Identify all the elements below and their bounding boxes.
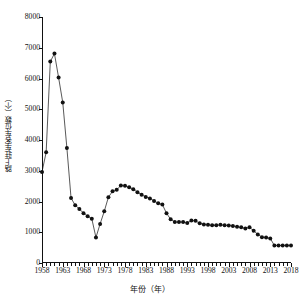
- data-point: [252, 229, 256, 233]
- data-point: [277, 243, 281, 247]
- y-tick-label: 2000: [25, 198, 40, 206]
- data-point: [65, 146, 69, 150]
- y-tick-mark: [39, 171, 42, 172]
- x-tick-mark-minor: [175, 263, 176, 266]
- chart-figure: 路上驻车客车位数（个） 8000700060005000400030002000…: [0, 0, 299, 301]
- data-point: [214, 223, 218, 227]
- data-point: [140, 193, 144, 197]
- x-axis-title: 年份（年）: [0, 283, 299, 294]
- data-point: [227, 223, 231, 227]
- data-point: [198, 221, 202, 225]
- data-point: [119, 184, 123, 188]
- x-tick-mark-minor: [50, 263, 51, 266]
- data-point: [123, 184, 127, 188]
- x-tick-label: 1963: [55, 267, 70, 275]
- data-point: [285, 243, 289, 247]
- data-point: [98, 222, 102, 226]
- data-point: [106, 195, 110, 199]
- x-tick-label: 2008: [242, 267, 257, 275]
- x-tick-label: 1988: [159, 267, 174, 275]
- y-tick-mark: [39, 140, 42, 141]
- y-tick-label: 4000: [25, 136, 40, 144]
- data-point: [102, 209, 106, 213]
- x-tick-label: 1993: [180, 267, 195, 275]
- data-point: [135, 190, 139, 194]
- x-tick-mark-minor: [154, 263, 155, 266]
- data-point: [173, 220, 177, 224]
- data-point: [256, 232, 260, 236]
- x-tick-mark-minor: [237, 263, 238, 266]
- data-point: [148, 196, 152, 200]
- x-tick-label: 1978: [117, 267, 132, 275]
- data-point: [160, 203, 164, 207]
- x-tick-label: 1998: [200, 267, 215, 275]
- y-tick-label: 3000: [25, 167, 40, 175]
- data-point: [152, 199, 156, 203]
- data-point: [69, 196, 73, 200]
- data-point: [264, 235, 268, 239]
- data-point: [144, 195, 148, 199]
- data-point: [272, 243, 276, 247]
- data-point: [235, 225, 239, 229]
- data-point: [177, 220, 181, 224]
- data-point: [289, 243, 293, 247]
- plot-area: [42, 17, 291, 263]
- x-tick-mark-minor: [196, 263, 197, 266]
- x-tick-label: 1968: [76, 267, 91, 275]
- y-tick-mark: [39, 79, 42, 80]
- x-tick-mark-minor: [113, 263, 114, 266]
- data-point: [127, 185, 131, 189]
- data-series: [42, 17, 291, 263]
- x-tick-mark-minor: [71, 263, 72, 266]
- x-tick-label: 2003: [221, 267, 236, 275]
- data-point: [111, 189, 115, 193]
- x-tick-label: 2013: [263, 267, 278, 275]
- x-tick-mark-minor: [92, 263, 93, 266]
- data-point: [268, 236, 272, 240]
- data-point: [44, 150, 48, 154]
- x-tick-mark-minor: [133, 263, 134, 266]
- data-point: [231, 224, 235, 228]
- y-tick-mark: [39, 202, 42, 203]
- x-tick-label: 1973: [97, 267, 112, 275]
- data-point: [94, 235, 98, 239]
- data-point: [86, 214, 90, 218]
- x-tick-label: 1983: [138, 267, 153, 275]
- data-point: [189, 219, 193, 223]
- data-point: [156, 201, 160, 205]
- data-point: [206, 223, 210, 227]
- x-tick-mark-minor: [279, 263, 280, 266]
- data-point: [169, 217, 173, 221]
- data-point: [165, 211, 169, 215]
- data-point: [194, 219, 198, 223]
- data-point: [82, 211, 86, 215]
- data-point: [281, 243, 285, 247]
- data-point: [239, 225, 243, 229]
- y-tick-label: 1000: [25, 228, 40, 236]
- x-tick-label: 2018: [283, 267, 298, 275]
- data-point: [52, 52, 56, 56]
- data-point: [210, 223, 214, 227]
- data-point: [57, 76, 61, 80]
- data-point: [223, 223, 227, 227]
- y-tick-mark: [39, 17, 42, 18]
- y-tick-label: 7000: [25, 44, 40, 52]
- data-point: [131, 187, 135, 191]
- series-markers: [40, 52, 293, 248]
- data-point: [48, 60, 52, 64]
- y-tick-label: 5000: [25, 105, 40, 113]
- y-tick-mark: [39, 109, 42, 110]
- data-point: [90, 217, 94, 221]
- y-tick-mark: [39, 232, 42, 233]
- data-point: [202, 223, 206, 227]
- x-tick-label: 1958: [34, 267, 49, 275]
- y-axis-tick-labels: 800070006000500040003000200010000: [16, 0, 40, 301]
- data-point: [243, 227, 247, 231]
- data-point: [185, 221, 189, 225]
- y-tick-label: 6000: [25, 75, 40, 83]
- y-tick-label: 8000: [25, 13, 40, 21]
- x-tick-mark-minor: [216, 263, 217, 266]
- data-point: [260, 235, 264, 239]
- data-point: [115, 188, 119, 192]
- data-point: [61, 100, 65, 104]
